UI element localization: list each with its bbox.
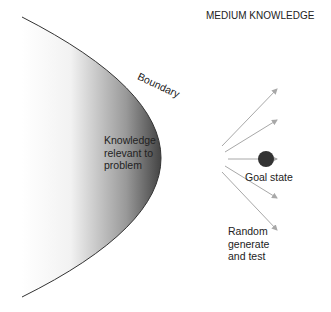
search-label-line: generate <box>228 238 269 251</box>
region-label-line: Knowledge <box>104 134 156 147</box>
diagram-canvas <box>0 0 331 312</box>
search-label-line: Random <box>228 225 269 238</box>
search-label-line: and test <box>228 250 269 263</box>
diagram-title: MEDIUM KNOWLEDGE <box>206 10 314 23</box>
region-label: Knowledge relevant to problem <box>104 134 156 172</box>
search-label: Random generate and test <box>228 225 269 263</box>
goal-state-dot <box>258 151 274 167</box>
region-label-line: relevant to <box>104 147 156 160</box>
goal-state-label: Goal state <box>245 171 293 184</box>
region-label-line: problem <box>104 159 156 172</box>
